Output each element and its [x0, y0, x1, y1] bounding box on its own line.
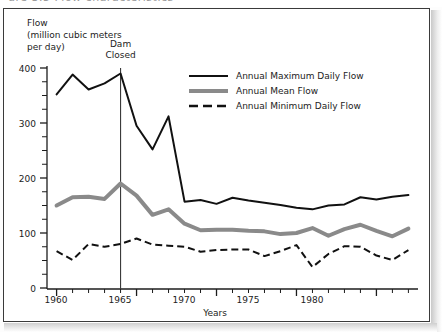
legend-label-maximum: Annual Maximum Daily Flow — [236, 71, 364, 81]
x-tick-label-1965: 1965 — [109, 295, 132, 305]
dam-closed-label-line-1: Dam — [110, 39, 131, 49]
y-tick-label-200: 200 — [19, 174, 36, 184]
figure-container: ure 3.5 Flow characteristics Flow (milli… — [0, 0, 442, 332]
series-line-annual-maximum-daily-flow — [57, 74, 409, 210]
x-tick-label-1970: 1970 — [173, 295, 196, 305]
line-chart: Flow (million cubic meters per day) — [0, 0, 442, 332]
legend-label-mean: Annual Mean Flow — [236, 86, 318, 96]
y-axis-title-line-2: (million cubic meters — [27, 30, 122, 40]
legend-label-minimum: Annual Minimum Daily Flow — [236, 101, 361, 111]
series-line-annual-minimum-daily-flow — [57, 239, 409, 268]
x-tick-label-1980: 1980 — [301, 295, 324, 305]
y-axis-title-line-1: Flow — [27, 18, 48, 28]
y-axis-title-line-3: per day) — [27, 42, 65, 52]
dam-closed-label-line-2: Closed — [105, 50, 135, 60]
y-tick-label-0: 0 — [30, 284, 36, 294]
legend: Annual Maximum Daily Flow Annual Mean Fl… — [189, 71, 364, 111]
x-tick-label-1960: 1960 — [45, 295, 68, 305]
series-line-annual-mean-flow — [57, 184, 409, 237]
x-tick-label-1975: 1975 — [237, 295, 260, 305]
y-tick-label-400: 400 — [19, 64, 36, 74]
y-tick-label-300: 300 — [19, 119, 36, 129]
y-axis-major-ticks — [40, 68, 47, 288]
x-axis-title: Years — [202, 308, 227, 318]
y-tick-label-100: 100 — [19, 229, 36, 239]
